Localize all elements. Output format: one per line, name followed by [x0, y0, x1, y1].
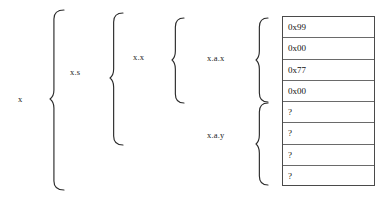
memory-cell-value: 0x00 [288, 44, 306, 53]
memory-cell-value: ? [288, 150, 292, 159]
memory-row: ? [283, 102, 374, 123]
memory-cell-value: 0x99 [288, 23, 306, 32]
memory-cell-value: 0x77 [288, 65, 306, 74]
memory-cell-value: 0x00 [288, 86, 306, 95]
memory-row: ? [283, 123, 374, 144]
memory-row: ? [283, 145, 374, 166]
memory-row: ? [283, 166, 374, 187]
memory-row: 0x77 [283, 60, 374, 81]
brace-xay-label: x.a.y [207, 131, 225, 140]
memory-row: 0x00 [283, 38, 374, 59]
memory-table: 0x990x000x770x00???? [282, 16, 375, 186]
memory-cell-value: ? [288, 172, 292, 181]
memory-cell-value: ? [288, 108, 292, 117]
memory-row: 0x99 [283, 17, 374, 38]
diagram-canvas: xx.sx.xx.a.xx.a.y 0x990x000x770x00???? [0, 0, 389, 198]
memory-row: 0x00 [283, 81, 374, 102]
memory-cell-value: ? [288, 129, 292, 138]
